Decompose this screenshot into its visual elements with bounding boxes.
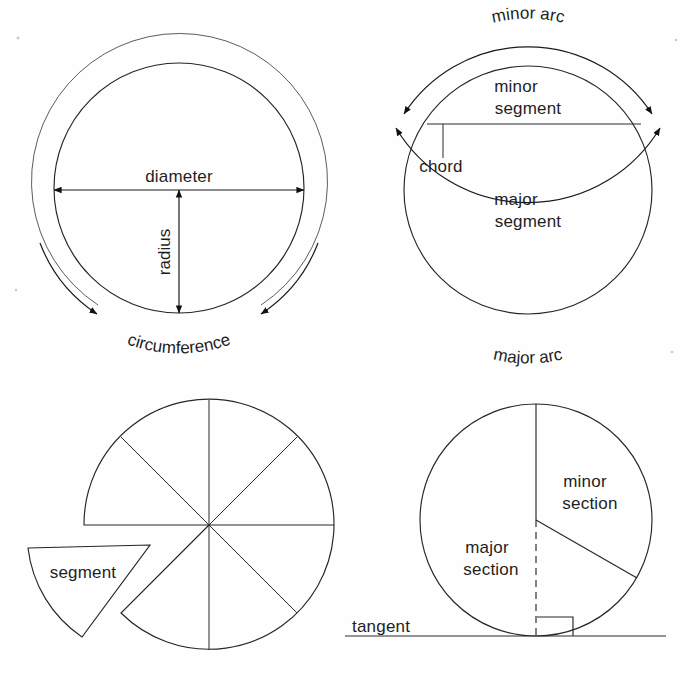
sector-radius-45 bbox=[209, 437, 297, 525]
segment-sectors-figure: segment bbox=[28, 399, 334, 650]
arcs-and-segments-figure: minor arc minor segment chord major segm… bbox=[396, 4, 677, 368]
major-segment-label-line2: segment bbox=[495, 212, 562, 231]
diameter-radius-circumference-figure: diameter radius circumference bbox=[15, 33, 328, 357]
major-section-label-line1: major bbox=[465, 538, 509, 557]
print-gap-nick bbox=[443, 110, 450, 116]
minor-section-label-line2: section bbox=[562, 494, 617, 513]
paper-speck bbox=[15, 289, 18, 292]
paper-speck bbox=[17, 37, 20, 40]
sector-radius-135 bbox=[121, 437, 209, 525]
diagram-sheet: diameter radius circumference minor bbox=[0, 0, 695, 676]
segment-label: segment bbox=[50, 563, 117, 582]
circle-terms-diagram: diameter radius circumference minor bbox=[0, 0, 695, 676]
circumference-arrow-right bbox=[261, 243, 318, 314]
chord-label: chord bbox=[419, 157, 463, 176]
diameter-label: diameter bbox=[145, 167, 213, 186]
major-arc-label: major arc bbox=[492, 344, 564, 367]
minor-segment-label-line2: segment bbox=[495, 99, 562, 118]
section-radius-lower-right bbox=[536, 520, 637, 578]
radius-label: radius bbox=[155, 229, 174, 275]
major-section-label-line2: section bbox=[463, 560, 518, 579]
print-gap-nick bbox=[92, 111, 99, 117]
minor-section-label-line1: minor bbox=[563, 472, 607, 491]
right-angle-marker bbox=[537, 617, 573, 636]
paper-speck bbox=[671, 351, 674, 354]
sections-and-tangent-figure: minor section major section tangent bbox=[345, 404, 666, 636]
paper-speck bbox=[675, 39, 678, 42]
circumference-arrow-left bbox=[40, 243, 97, 314]
circumference-label: circumference bbox=[125, 330, 232, 358]
major-segment-label-line1: major bbox=[494, 190, 538, 209]
print-gap-nick bbox=[256, 112, 264, 118]
tangent-label: tangent bbox=[352, 617, 410, 636]
minor-segment-label-line1: minor bbox=[494, 77, 538, 96]
sector-radius-315 bbox=[209, 525, 297, 613]
print-gap-nick bbox=[606, 110, 613, 116]
minor-arc-label: minor arc bbox=[490, 4, 567, 27]
